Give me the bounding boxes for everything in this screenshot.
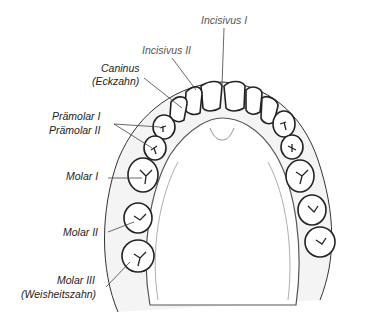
label-caninus-eckzahn: (Eckzahn) [92, 75, 139, 88]
label-incisivus-2: Incisivus II [142, 44, 191, 57]
label-molar-3: Molar III [57, 274, 95, 287]
label-molar-2: Molar II [63, 226, 98, 239]
label-molar-1: Molar I [66, 170, 98, 183]
dental-arch-diagram: Incisivus I Incisivus II Caninus (Eckzah… [0, 0, 367, 328]
label-praemolar-2: Prämolar II [49, 124, 100, 137]
label-praemolar-1: Prämolar I [52, 110, 100, 123]
label-caninus: Caninus [101, 62, 140, 75]
label-weisheitszahn: (Weisheitszahn) [21, 288, 96, 301]
label-incisivus-1: Incisivus I [201, 14, 247, 27]
